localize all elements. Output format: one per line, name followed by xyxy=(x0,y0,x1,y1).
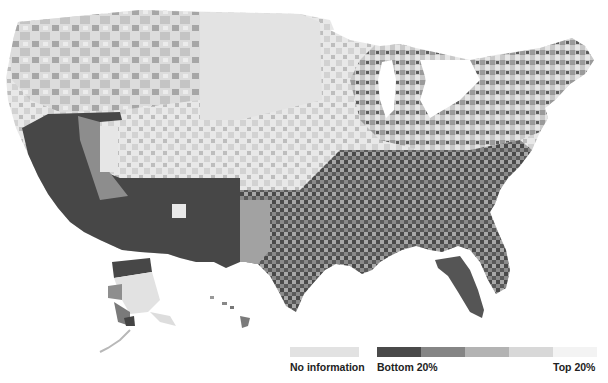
hawaii-big-island xyxy=(240,316,250,328)
us-county-choropleth-map xyxy=(0,0,608,383)
alaska xyxy=(100,258,176,352)
alaska-panhandle xyxy=(150,312,176,326)
region-florida xyxy=(435,256,484,318)
region-utah-light xyxy=(100,126,118,172)
region-west-texas xyxy=(240,200,270,264)
region-northwest xyxy=(10,10,200,112)
alaska-west xyxy=(108,284,122,300)
region-north-plains xyxy=(200,12,322,120)
contiguous-us xyxy=(6,10,594,318)
hawaii xyxy=(210,296,250,328)
region-arizona-light xyxy=(172,204,186,218)
aleutians xyxy=(100,330,130,352)
